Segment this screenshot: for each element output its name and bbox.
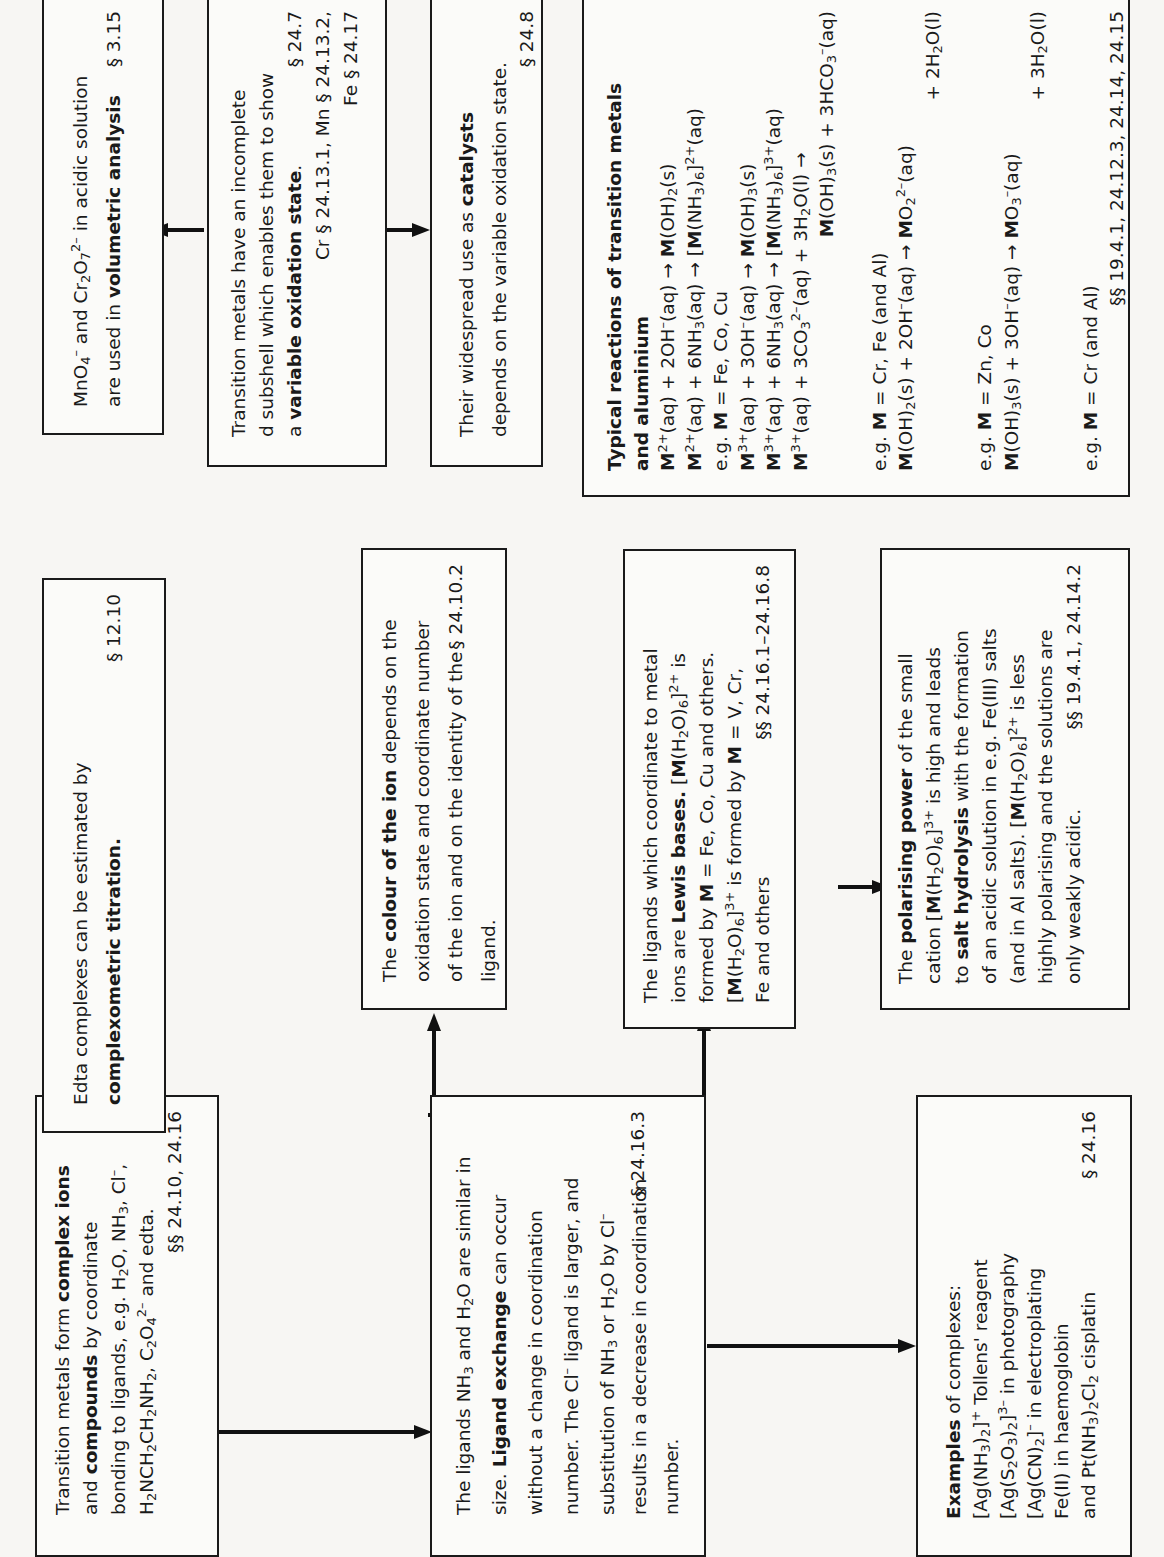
- text: (NH: [763, 196, 784, 231]
- section-reference: Fe § 24.17: [337, 11, 365, 437]
- superscript: +: [968, 1411, 983, 1422]
- metal-symbol: M: [1007, 802, 1028, 820]
- text: ]: [997, 1415, 1018, 1422]
- text: ]: [724, 911, 745, 918]
- subscript: 3: [116, 1206, 131, 1214]
- bold-term: Ligand exchange: [489, 1291, 510, 1468]
- section-reference: §§ 24.16.1–24.16.8: [749, 565, 777, 740]
- text: are used in: [103, 298, 124, 407]
- text: e.g.: [974, 430, 995, 471]
- text: (OH): [1001, 410, 1022, 453]
- text: ligand.: [472, 564, 505, 982]
- text: O(l) →: [790, 152, 811, 208]
- subscript: 2: [732, 948, 747, 956]
- text: + 3H: [1027, 53, 1048, 100]
- text: substitution of NH: [597, 1348, 618, 1515]
- subscript: 6: [676, 700, 691, 708]
- superscript: 2+: [681, 146, 696, 165]
- text: [: [668, 778, 689, 791]
- section-reference: §§ 19.4.1, 24.12.3, 24.14, 24.15: [1104, 11, 1131, 471]
- bold-term: colour of the ion: [379, 770, 400, 942]
- subscript: 3: [798, 321, 813, 329]
- subscript: 3: [461, 1366, 476, 1374]
- text: O): [724, 926, 745, 948]
- text: ): [763, 180, 784, 187]
- subscript: 6: [1015, 743, 1030, 751]
- bold-term: salt hydrolysis: [951, 807, 972, 959]
- text: (aq) + 3CO: [790, 329, 811, 433]
- metal-symbol: M: [684, 231, 705, 249]
- text: and Cr: [70, 283, 91, 350]
- equation: M2+(aq) + 2OH–(aq) → M(OH)2(s): [655, 11, 682, 471]
- text: a: [284, 420, 305, 437]
- text: cisplatin: [1078, 1292, 1099, 1375]
- superscript: –: [106, 1170, 121, 1176]
- text: The: [895, 944, 916, 984]
- section-reference: § 3.15: [97, 11, 130, 67]
- text: (s) + 3HCO: [816, 63, 837, 168]
- text: (H: [1007, 781, 1028, 802]
- bold-term: Lewis bases.: [668, 791, 689, 924]
- text: with the formation: [951, 630, 972, 807]
- metal-symbol: M: [1001, 220, 1022, 238]
- text: = Cr (and Al): [1080, 285, 1101, 412]
- text: O: [895, 206, 916, 221]
- subscript: 2: [144, 1409, 159, 1417]
- subscript: 2: [1015, 773, 1030, 781]
- text: bonding to ligands, e.g. H: [108, 1277, 129, 1515]
- metal-symbol: M: [696, 884, 717, 902]
- text: (s) + 3OH: [1001, 310, 1022, 402]
- superscript: –: [68, 350, 83, 356]
- subscript: 3: [1005, 1437, 1020, 1445]
- text: and edta.: [136, 1208, 157, 1302]
- subscript: 2: [1086, 1375, 1101, 1383]
- metal-symbol: M: [657, 239, 678, 257]
- subscript: 2: [903, 197, 918, 205]
- text: NCH: [136, 1452, 157, 1493]
- subscript: 3: [745, 188, 760, 196]
- text: The ligands NH: [453, 1375, 474, 1515]
- equation: M2+(aq) + 6NH3(aq) → [M(NH3)6]2+(aq): [682, 11, 709, 471]
- subscript: 2: [144, 1373, 159, 1381]
- subscript: 2: [116, 1268, 131, 1276]
- text: ligand is larger, and: [561, 1178, 582, 1368]
- text: ]: [1007, 735, 1028, 742]
- subscript: 3: [771, 187, 786, 195]
- superscript: 2–: [68, 237, 83, 252]
- text: = Fe, Co, Cu: [710, 291, 731, 412]
- text: or H: [597, 1295, 618, 1340]
- text: CH: [136, 1417, 157, 1444]
- superscript: 2–: [893, 183, 908, 198]
- text: (aq) + 6NH: [763, 329, 784, 433]
- box-catalysts: Their widespread use as catalysts depend…: [430, 0, 543, 467]
- text: (aq): [684, 108, 705, 146]
- superscript: 3+: [734, 434, 749, 453]
- text: Cl: [1078, 1383, 1099, 1401]
- text: without a change in coordination: [518, 1111, 554, 1515]
- box-edta: Edta complexes can be estimated by compl…: [42, 578, 166, 1133]
- text: (aq): [763, 108, 784, 146]
- box-title: and aluminium: [631, 316, 652, 471]
- section-reference: §§ 24.10, 24.16: [161, 1111, 189, 1515]
- text: cation [: [923, 914, 944, 984]
- superscript: –: [734, 322, 749, 328]
- text: Edta complexes can be estimated by: [64, 594, 97, 1105]
- metal-symbol: M: [1080, 412, 1101, 430]
- metal-symbol: M: [816, 219, 837, 237]
- subscript: 6: [692, 172, 707, 180]
- subscript: 2: [931, 866, 946, 874]
- metal-symbol: M: [869, 412, 890, 430]
- subscript: 3: [1009, 197, 1024, 205]
- text: ): [997, 1430, 1018, 1437]
- text: The ligands which coordinate to metal: [637, 565, 665, 1003]
- text: H: [136, 1501, 157, 1515]
- text: Tollens' reagent: [970, 1259, 991, 1410]
- text: (H: [923, 874, 944, 895]
- box-complex-ions: Transition metals form complex ions and …: [35, 1095, 219, 1557]
- metal-symbol: M: [790, 453, 811, 471]
- text: (and in Al salts). [: [1007, 820, 1028, 984]
- text: Transition metals form: [52, 1302, 73, 1515]
- text: and H: [453, 1306, 474, 1366]
- equation: M(OH)2(s) + 2OH–(aq) → MO22–(aq): [893, 11, 920, 471]
- box-examples-of-complexes: Examples of complexes: [Ag(NH3)2]+ Tolle…: [916, 1095, 1132, 1557]
